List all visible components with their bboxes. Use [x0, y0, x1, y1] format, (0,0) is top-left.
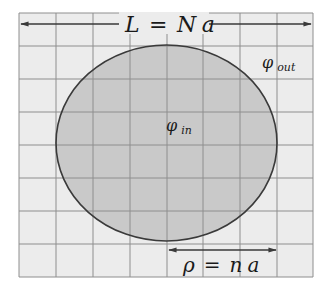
lattice-disk-diagram: L = N a ρ = n a φ in φ out — [0, 0, 328, 292]
box-size-label: L = N a — [124, 12, 215, 37]
radius-label: ρ = n a — [182, 253, 259, 277]
